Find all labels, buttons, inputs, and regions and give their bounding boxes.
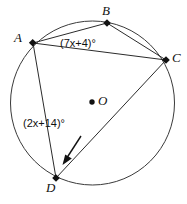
center-label-o: O	[98, 94, 107, 107]
circle-diagram-canvas	[0, 0, 187, 204]
center-dot-O	[89, 99, 94, 104]
angle-label-at-d: (2x+14)°	[23, 118, 65, 129]
chord-DC	[56, 60, 166, 178]
point-label-c: C	[172, 51, 181, 64]
chord-AD	[33, 43, 56, 178]
point-label-b: B	[102, 4, 110, 17]
point-label-d: D	[46, 181, 55, 194]
chord-BC	[107, 23, 166, 60]
leader-arrow-head	[63, 155, 72, 166]
chord-AC	[33, 43, 166, 60]
vertex-dot-B	[103, 19, 111, 27]
vertex-dot-A	[29, 39, 37, 47]
geometry-figure: A B C D O (7x+4)° (2x+14)°	[0, 0, 187, 204]
angle-label-at-b: (7x+4)°	[60, 38, 96, 49]
point-label-a: A	[14, 31, 22, 44]
